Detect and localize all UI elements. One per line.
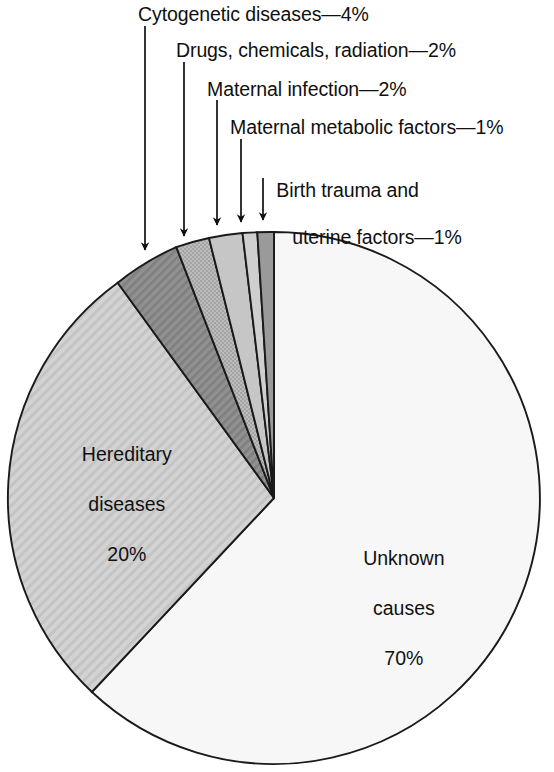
hereditary-label-value: 20% (107, 543, 146, 565)
slice-label-unknown-causes: Unknown causes 70% (305, 521, 481, 696)
unknown-label-line-1: Unknown (363, 547, 444, 569)
unknown-label-line-2: causes (373, 597, 435, 619)
slice-label-hereditary-diseases: Hereditary diseases 20% (28, 417, 204, 592)
callout-birth-trauma-line-2: uterine factors—1% (276, 226, 461, 248)
hereditary-label-line-2: diseases (88, 493, 165, 515)
callout-label-cytogenetic-diseases: Cytogenetic diseases—4% (138, 3, 369, 27)
pie-chart-figure: Cytogenetic diseases—4% Drugs, chemicals… (0, 0, 554, 772)
callout-label-maternal-metabolic-factors: Maternal metabolic factors—1% (230, 116, 503, 140)
callout-label-birth-trauma-uterine-factors: Birth trauma and uterine factors—1% (255, 155, 462, 274)
hereditary-label-line-1: Hereditary (82, 443, 172, 465)
unknown-label-value: 70% (384, 647, 423, 669)
callout-label-maternal-infection: Maternal infection—2% (207, 78, 407, 102)
callout-label-drugs-chemicals-radiation: Drugs, chemicals, radiation—2% (176, 39, 456, 63)
callout-birth-trauma-line-1: Birth trauma and (276, 179, 419, 201)
